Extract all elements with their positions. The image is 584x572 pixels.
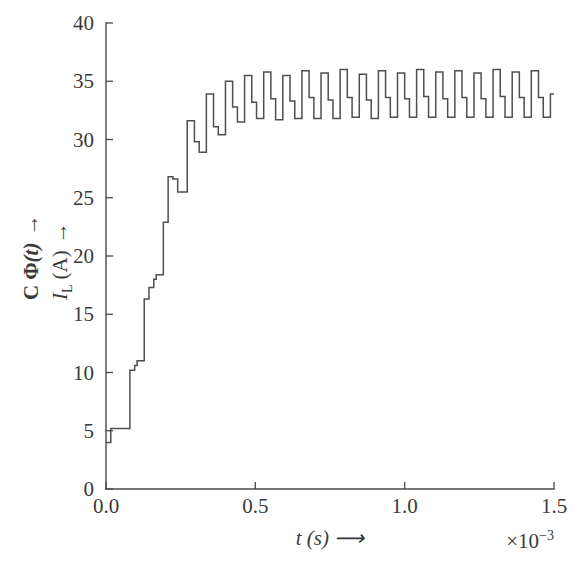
- x-tick-label: 0.5: [242, 494, 268, 518]
- x-axis-multiplier-exponent: −3: [539, 528, 554, 543]
- y-tick-label: 10: [73, 361, 94, 385]
- ylabel-L-subscript: L: [60, 284, 75, 293]
- chart-figure: CΦ(t)→ IL(A)→ 0510152025303540 0.00.51.0…: [0, 0, 584, 572]
- ylabel-unit-amp: (A): [48, 250, 72, 279]
- ylabel-C: C: [19, 285, 43, 300]
- y-tick-label: 25: [73, 186, 94, 210]
- ylabel-arrow-secondary: →: [48, 222, 72, 243]
- x-tick-label: 0.0: [93, 494, 119, 518]
- current-waveform-chart: CΦ(t)→ IL(A)→ 0510152025303540 0.00.51.0…: [0, 0, 584, 572]
- x-axis-label: t (s) ⟶: [296, 526, 365, 550]
- ylabel-phi: Φ: [19, 262, 43, 279]
- x-axis-multiplier-base: ×10: [506, 529, 539, 553]
- y-axis-ticks: 0510152025303540: [73, 11, 113, 501]
- data-series-group: [106, 70, 554, 443]
- y-tick-label: 40: [73, 11, 94, 35]
- x-axis-label-text: t (s) ⟶: [296, 526, 365, 550]
- inductor-current-trace: [106, 70, 554, 443]
- x-axis-multiplier: ×10−3: [506, 528, 554, 553]
- y-tick-label: 20: [73, 244, 94, 268]
- y-axis-label-primary-text: CΦ(t)→: [19, 215, 43, 300]
- x-axis-ticks: 0.00.51.01.5: [93, 482, 567, 518]
- y-tick-label: 30: [73, 128, 94, 152]
- ylabel-arrow-primary: →: [19, 215, 43, 236]
- y-axis-label-secondary-text: IL(A)→: [48, 222, 75, 301]
- x-tick-label: 1.5: [541, 494, 567, 518]
- y-axis-label-secondary: IL(A)→: [48, 222, 75, 301]
- ylabel-of-t: (t): [19, 243, 43, 263]
- y-tick-label: 35: [73, 69, 94, 93]
- y-tick-label: 15: [73, 302, 94, 326]
- y-axis-label-primary: CΦ(t)→: [19, 215, 43, 300]
- y-tick-label: 5: [84, 419, 95, 443]
- x-tick-label: 1.0: [392, 494, 418, 518]
